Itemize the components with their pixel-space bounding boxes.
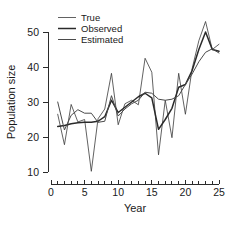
y-tick-label-30: 30 (27, 96, 39, 108)
y-tick-label-50: 50 (27, 26, 39, 38)
y-tick-label-20: 20 (27, 131, 39, 143)
legend-label-estimated: Estimated (81, 34, 123, 45)
y-tick-label-10: 10 (27, 166, 39, 178)
legend-label-observed: Observed (81, 23, 122, 34)
y-tick-label-40: 40 (27, 61, 39, 73)
x-axis-minor-ticks (51, 180, 219, 184)
series-line-observed (58, 32, 219, 129)
population-size-line-chart: 50 40 30 20 10 Population size (0, 0, 243, 229)
chart-legend: True Observed Estimated (58, 12, 123, 45)
chart-figure: 50 40 30 20 10 Population size (0, 0, 243, 229)
x-axis-title: Year (124, 202, 147, 214)
x-tick-label-20: 20 (180, 186, 192, 198)
x-tick-label-25: 25 (213, 186, 225, 198)
x-tick-label-0: 0 (48, 186, 54, 198)
x-tick-label-15: 15 (146, 186, 158, 198)
x-tick-label-5: 5 (82, 186, 88, 198)
y-axis-title: Population size (5, 65, 17, 140)
y-axis-ticks (43, 32, 48, 172)
legend-label-true: True (81, 12, 100, 23)
x-tick-label-10: 10 (112, 186, 124, 198)
